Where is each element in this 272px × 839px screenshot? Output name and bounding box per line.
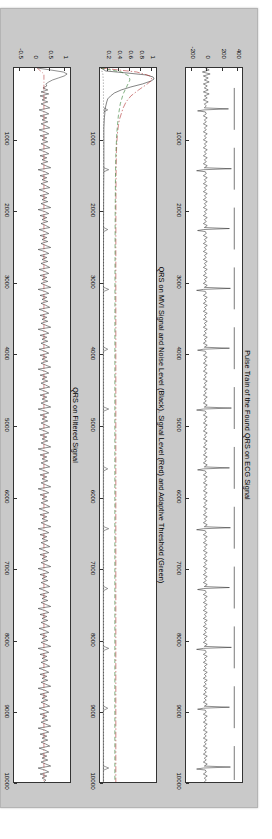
tick bbox=[186, 569, 189, 570]
panel-2-yticklabels: 0.2 0.4 0.6 0.8 1 bbox=[99, 9, 157, 63]
tick bbox=[14, 140, 17, 141]
tick bbox=[19, 68, 20, 71]
panel-1-plot-area bbox=[186, 68, 242, 782]
tick bbox=[14, 641, 17, 642]
panel-3-yticklabels: -0.5 0 0.5 1 bbox=[13, 9, 71, 63]
tick bbox=[186, 140, 189, 141]
tick bbox=[186, 641, 189, 642]
panel-1-title: Pulse Train of the Found QRS on ECG Sign… bbox=[243, 67, 252, 783]
xtick-label: 2000 bbox=[90, 203, 97, 217]
figure-rotation-wrapper: Pulse Train of the Found QRS on ECG Sign… bbox=[0, 8, 258, 808]
tick bbox=[186, 783, 189, 784]
tick bbox=[186, 283, 189, 284]
ytick-label: 0.6 bbox=[128, 50, 135, 59]
xtick-label: 1000 bbox=[176, 132, 183, 146]
ytick-label: 0.5 bbox=[48, 50, 55, 59]
panel-2-title: QRS on MVI Signal and Noise Level (Black… bbox=[157, 67, 166, 783]
mvi-signal-plot bbox=[100, 68, 156, 782]
xtick-label: 4000 bbox=[176, 347, 183, 361]
tick bbox=[186, 712, 189, 713]
xtick-label: 6000 bbox=[90, 490, 97, 504]
filtered-signal-trace bbox=[37, 68, 67, 782]
panel-pulse-train[interactable] bbox=[185, 67, 243, 783]
tick bbox=[107, 68, 108, 71]
adaptive-threshold-trace bbox=[101, 68, 130, 782]
xtick-label: 1000 bbox=[90, 132, 97, 146]
tick bbox=[140, 68, 141, 71]
panel-mvi[interactable] bbox=[99, 67, 157, 783]
ytick-label: 0.8 bbox=[139, 50, 146, 59]
matlab-figure: Pulse Train of the Found QRS on ECG Sign… bbox=[0, 8, 258, 808]
tick bbox=[118, 68, 119, 71]
xtick-label: 8000 bbox=[4, 633, 11, 647]
tick bbox=[14, 783, 17, 784]
tick bbox=[100, 354, 103, 355]
ytick-label: 0 bbox=[33, 56, 40, 59]
xtick-label: 7000 bbox=[90, 561, 97, 575]
ytick-label: 0.4 bbox=[117, 50, 124, 59]
panel-3-title: QRS on Filtered Signal bbox=[71, 67, 80, 783]
xtick-label: 4000 bbox=[90, 347, 97, 361]
tick bbox=[186, 211, 189, 212]
panel-1-yticklabels: -200 0 200 400 bbox=[185, 9, 243, 63]
ytick-label: -0.5 bbox=[18, 48, 25, 59]
ecg-signal-trace bbox=[197, 68, 232, 782]
tick bbox=[100, 283, 103, 284]
tick bbox=[14, 569, 17, 570]
xtick-label: 9000 bbox=[176, 705, 183, 719]
mvi-signal-trace bbox=[101, 68, 154, 782]
ytick-label: 1 bbox=[150, 56, 157, 59]
tick bbox=[14, 712, 17, 713]
xtick-label: 5000 bbox=[4, 418, 11, 432]
tick bbox=[14, 211, 17, 212]
figure-window: Pulse Train of the Found QRS on ECG Sign… bbox=[0, 0, 272, 839]
tick bbox=[100, 569, 103, 570]
xtick-label: 9000 bbox=[90, 705, 97, 719]
tick bbox=[186, 354, 189, 355]
xtick-label: 3000 bbox=[4, 275, 11, 289]
tick bbox=[34, 68, 35, 71]
tick bbox=[100, 641, 103, 642]
tick bbox=[186, 426, 189, 427]
panel-filtered[interactable] bbox=[13, 67, 71, 783]
tick bbox=[100, 498, 103, 499]
xtick-label: 6000 bbox=[4, 490, 11, 504]
ytick-label: -200 bbox=[190, 47, 197, 59]
signal-level-trace bbox=[101, 68, 152, 782]
tick bbox=[100, 783, 103, 784]
ytick-label: 1 bbox=[63, 56, 70, 59]
xtick-label: 8000 bbox=[176, 633, 183, 647]
tick bbox=[100, 211, 103, 212]
ytick-label: 0 bbox=[205, 56, 212, 59]
ecg-signal-plot bbox=[186, 68, 242, 782]
tick bbox=[237, 68, 238, 71]
xtick-label: 10000 bbox=[176, 772, 183, 789]
tick bbox=[222, 68, 223, 71]
tick bbox=[49, 68, 50, 71]
xtick-label: 7000 bbox=[4, 561, 11, 575]
ytick-label: 200 bbox=[221, 49, 228, 59]
tick bbox=[100, 426, 103, 427]
tick bbox=[64, 68, 65, 71]
filtered-signal-plot bbox=[14, 68, 70, 782]
xtick-label: 2000 bbox=[4, 203, 11, 217]
panel-3-plot-area bbox=[14, 68, 70, 782]
xtick-label: 5000 bbox=[176, 418, 183, 432]
tick bbox=[100, 712, 103, 713]
tick bbox=[151, 68, 152, 71]
ytick-label: 400 bbox=[236, 49, 243, 59]
xtick-label: 2000 bbox=[176, 203, 183, 217]
tick bbox=[129, 68, 130, 71]
xtick-label: 8000 bbox=[90, 633, 97, 647]
xtick-label: 7000 bbox=[176, 561, 183, 575]
xtick-label: 1000 bbox=[4, 132, 11, 146]
tick bbox=[191, 68, 192, 71]
xtick-label: 3000 bbox=[90, 275, 97, 289]
ytick-label: 0.2 bbox=[106, 50, 113, 59]
tick bbox=[14, 426, 17, 427]
xtick-label: 5000 bbox=[90, 418, 97, 432]
tick bbox=[14, 498, 17, 499]
tick bbox=[206, 68, 207, 71]
xtick-label: 9000 bbox=[4, 705, 11, 719]
xtick-label: 4000 bbox=[4, 347, 11, 361]
